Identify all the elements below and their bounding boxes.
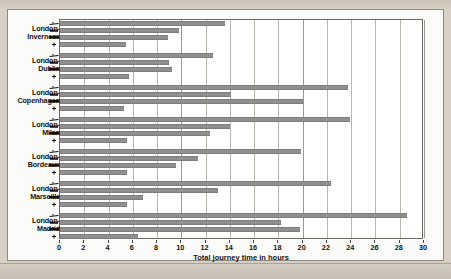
- bar: [60, 106, 124, 111]
- x-axis-tick-label: 0: [57, 243, 61, 252]
- coach-icon: [49, 99, 59, 104]
- bar: [60, 99, 303, 104]
- bar: [60, 67, 172, 72]
- train-icon: [49, 188, 59, 193]
- car-icon: [49, 74, 59, 79]
- bar: [60, 149, 301, 154]
- x-axis-tick-label: 6: [130, 243, 134, 252]
- bar: [60, 53, 213, 58]
- bar-row: [60, 85, 422, 90]
- bar: [60, 21, 225, 26]
- x-axis-tick-label: 4: [106, 243, 110, 252]
- bar: [60, 195, 143, 200]
- bar: [60, 202, 127, 207]
- x-axis-title: Total journey time in hours: [59, 253, 423, 262]
- bar-row: [60, 74, 422, 79]
- gridline: [424, 20, 425, 238]
- plane-icon: [49, 117, 59, 122]
- x-axis-tick-label: 16: [249, 243, 257, 252]
- plane-icon: [49, 85, 59, 90]
- bar-row: [60, 213, 422, 218]
- bar-row: [60, 202, 422, 207]
- bar: [60, 60, 169, 65]
- bar: [60, 188, 218, 193]
- bar-row: [60, 234, 422, 239]
- train-icon: [49, 92, 59, 97]
- car-icon: [49, 234, 59, 239]
- scanned-page: London-InvernessLondon-DublinLondon-Cope…: [0, 0, 451, 279]
- bar: [60, 74, 129, 79]
- x-axis-tick-label: 28: [395, 243, 403, 252]
- bar-row: [60, 131, 422, 136]
- bar-row: [60, 124, 422, 129]
- bar: [60, 163, 176, 168]
- bar-row: [60, 227, 422, 232]
- bar-row: [60, 220, 422, 225]
- car-icon: [49, 106, 59, 111]
- coach-icon: [49, 163, 59, 168]
- bar-row: [60, 67, 422, 72]
- bar: [60, 131, 210, 136]
- x-axis-tick-label: 30: [419, 243, 427, 252]
- x-axis-tick-label: 24: [346, 243, 354, 252]
- bar: [60, 156, 198, 161]
- x-axis-tick-label: 12: [201, 243, 209, 252]
- x-axis-tick-label: 26: [370, 243, 378, 252]
- coach-icon: [49, 131, 59, 136]
- coach-icon: [49, 35, 59, 40]
- train-icon: [49, 156, 59, 161]
- bar-row: [60, 99, 422, 104]
- plane-icon: [49, 53, 59, 58]
- x-axis-tick-label: 20: [298, 243, 306, 252]
- bar-row: [60, 170, 422, 175]
- x-axis-tick-label: 14: [225, 243, 233, 252]
- bar: [60, 42, 126, 47]
- bar-row: [60, 188, 422, 193]
- coach-icon: [49, 67, 59, 72]
- bar-row: [60, 163, 422, 168]
- car-icon: [49, 170, 59, 175]
- bar-row: [60, 53, 422, 58]
- plane-icon: [49, 21, 59, 26]
- car-icon: [49, 42, 59, 47]
- train-icon: [49, 28, 59, 33]
- car-icon: [49, 202, 59, 207]
- transport-mode-icon-column: [49, 20, 60, 238]
- coach-icon: [49, 195, 59, 200]
- bar-row: [60, 42, 422, 47]
- bar: [60, 170, 127, 175]
- train-icon: [49, 124, 59, 129]
- bar-row: [60, 35, 422, 40]
- chart-figure: London-InvernessLondon-DublinLondon-Cope…: [7, 9, 444, 261]
- train-icon: [49, 60, 59, 65]
- page-bottom-edge: [0, 259, 451, 279]
- bar-row: [60, 181, 422, 186]
- bar: [60, 234, 138, 239]
- x-axis-tick-label: 22: [322, 243, 330, 252]
- plane-icon: [49, 213, 59, 218]
- bar-row: [60, 21, 422, 26]
- bar: [60, 28, 179, 33]
- train-icon: [49, 220, 59, 225]
- bar-row: [60, 138, 422, 143]
- x-axis: 024681012141618202224262830: [59, 240, 423, 254]
- bar: [60, 181, 331, 186]
- bar-row: [60, 156, 422, 161]
- bar: [60, 124, 230, 129]
- car-icon: [49, 138, 59, 143]
- bar: [60, 138, 127, 143]
- bar-row: [60, 60, 422, 65]
- plane-icon: [49, 181, 59, 186]
- x-axis-tick-label: 8: [154, 243, 158, 252]
- plane-icon: [49, 149, 59, 154]
- bar: [60, 85, 348, 90]
- bar-row: [60, 149, 422, 154]
- coach-icon: [49, 227, 59, 232]
- bar-row: [60, 195, 422, 200]
- bar: [60, 35, 168, 40]
- bar: [60, 92, 231, 97]
- bar: [60, 117, 350, 122]
- bar: [60, 227, 300, 232]
- bar-row: [60, 28, 422, 33]
- plot-area: London-InvernessLondon-DublinLondon-Cope…: [59, 19, 423, 239]
